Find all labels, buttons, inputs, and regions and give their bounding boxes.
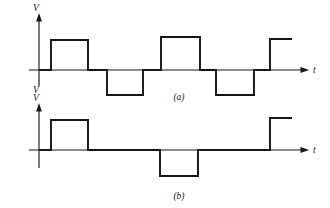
panel-a-waveform-trace bbox=[39, 37, 292, 95]
panel-b-x-axis-label: t bbox=[313, 145, 316, 155]
panel-a-group: V V t (a) bbox=[29, 3, 316, 103]
panel-b-y-axis-label: V bbox=[33, 93, 40, 103]
panel-b-caption: (b) bbox=[173, 191, 184, 202]
waveform-figure: V V t (a) V t (b) bbox=[0, 0, 330, 208]
panel-b-x-axis-arrow-icon bbox=[301, 147, 310, 153]
panel-a-x-axis-label: t bbox=[313, 65, 316, 75]
waveform-svg-canvas: V V t (a) V t (b) bbox=[0, 0, 330, 208]
panel-a-y-axis-label: V bbox=[33, 3, 40, 13]
panel-a-caption: (a) bbox=[173, 92, 184, 103]
panel-a-y-axis-arrow-icon bbox=[36, 13, 42, 22]
panel-b-group: V t (b) bbox=[29, 93, 316, 202]
panel-a-x-axis-arrow-icon bbox=[301, 67, 310, 73]
panel-b-y-axis-arrow-icon bbox=[36, 103, 42, 112]
panel-b-waveform-trace bbox=[39, 118, 292, 176]
